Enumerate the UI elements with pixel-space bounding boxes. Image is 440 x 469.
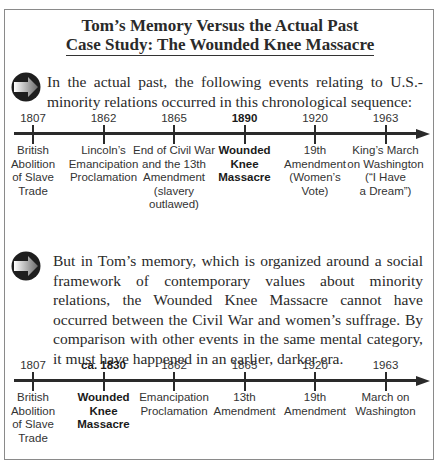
timeline-year: 1807: [0, 112, 73, 124]
timeline-event-label: King’s March on Washington (“I Have a Dr…: [341, 144, 431, 198]
timeline-tick: [385, 372, 387, 391]
timeline-year: 1920: [275, 359, 355, 371]
timeline-tick: [314, 125, 316, 144]
arrow-right-icon: [11, 251, 41, 281]
timeline-year: ca. 1830: [64, 359, 144, 371]
timeline-year: 1862: [134, 359, 214, 371]
timeline-tick: [32, 125, 34, 144]
timeline-tick: [173, 125, 175, 144]
timeline-tick: [103, 125, 105, 144]
timeline-event-label: March on Washington: [341, 391, 431, 418]
toms-memory-timeline: 1807British Abolition of Slave Tradeca. …: [10, 359, 430, 459]
section1-text: In the actual past, the following events…: [47, 72, 423, 111]
timeline-axis: [14, 132, 416, 135]
timeline-tick: [244, 125, 246, 144]
timeline-axis: [14, 379, 416, 382]
timeline-tick: [385, 125, 387, 144]
actual-past-timeline: 1807British Abolition of Slave Trade1862…: [10, 112, 430, 212]
title-line-2: Case Study: The Wounded Knee Massacre: [66, 35, 374, 56]
arrow-right-icon: [11, 72, 41, 102]
timeline-year: 1963: [346, 359, 426, 371]
timeline-tick: [314, 372, 316, 391]
timeline-year: 1865: [205, 359, 285, 371]
timeline-tick: [32, 372, 34, 391]
section2-text: But in Tom’s memory, which is organized …: [53, 251, 423, 368]
timeline-year: 1807: [0, 359, 73, 371]
timeline-tick: [244, 372, 246, 391]
timeline-year: 1862: [64, 112, 144, 124]
timeline-year: 1890: [205, 112, 285, 124]
title-line-1: Tom’s Memory Versus the Actual Past: [0, 16, 440, 35]
timeline-year: 1963: [346, 112, 426, 124]
timeline-year: 1920: [275, 112, 355, 124]
figure-title: Tom’s Memory Versus the Actual Past Case…: [0, 16, 440, 56]
timeline-year: 1865: [134, 112, 214, 124]
timeline-arrowhead: [416, 129, 430, 139]
timeline-tick: [173, 372, 175, 391]
timeline-tick: [103, 372, 105, 391]
timeline-arrowhead: [416, 376, 430, 386]
